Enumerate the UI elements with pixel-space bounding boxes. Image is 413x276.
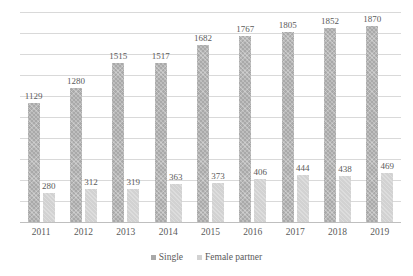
x-axis-label-2012: 2012 bbox=[62, 224, 104, 240]
bar-female-partner[interactable]: 469 bbox=[381, 173, 393, 222]
x-axis-label-2015: 2015 bbox=[189, 224, 231, 240]
bar-value-label: 1805 bbox=[279, 20, 297, 30]
bar-group: 1515319 bbox=[105, 12, 147, 222]
bar-group: 1767406 bbox=[232, 12, 274, 222]
bar-value-label: 1870 bbox=[363, 14, 381, 24]
legend-label: Single bbox=[159, 251, 183, 263]
bar-value-label: 406 bbox=[254, 167, 268, 177]
bar-single[interactable]: 1129 bbox=[28, 103, 40, 222]
bar-value-label: 1852 bbox=[321, 16, 339, 26]
bar-group: 1805444 bbox=[274, 12, 316, 222]
legend-swatch-icon bbox=[197, 255, 202, 260]
bar-female-partner[interactable]: 438 bbox=[339, 176, 351, 222]
bar-value-label: 1517 bbox=[152, 51, 170, 61]
x-axis-label-2011: 2011 bbox=[20, 224, 62, 240]
bar-single[interactable]: 1515 bbox=[112, 63, 124, 222]
bar-chart: 1129280128031215153191517363168237317674… bbox=[0, 0, 413, 276]
bar-female-partner[interactable]: 280 bbox=[43, 193, 55, 222]
bar-female-partner[interactable]: 312 bbox=[85, 189, 97, 222]
bar-value-label: 373 bbox=[211, 171, 225, 181]
legend-label: Female partner bbox=[205, 251, 262, 263]
bar-female-partner[interactable]: 444 bbox=[297, 175, 309, 222]
bar-female-partner[interactable]: 373 bbox=[212, 183, 224, 222]
x-axis-label-2018: 2018 bbox=[316, 224, 358, 240]
x-axis-label-2013: 2013 bbox=[105, 224, 147, 240]
bar-value-label: 319 bbox=[127, 177, 141, 187]
bar-female-partner[interactable]: 363 bbox=[170, 184, 182, 222]
bar-groups: 1129280128031215153191517363168237317674… bbox=[20, 12, 401, 222]
x-axis-label-2014: 2014 bbox=[147, 224, 189, 240]
x-axis-tick-labels: 201120122013201420152016201720182019 bbox=[20, 224, 401, 240]
bar-female-partner[interactable]: 406 bbox=[254, 179, 266, 222]
bar-single[interactable]: 1852 bbox=[324, 28, 336, 222]
bar-single[interactable]: 1805 bbox=[282, 32, 294, 222]
bar-value-label: 1129 bbox=[25, 91, 43, 101]
bar-value-label: 438 bbox=[338, 164, 352, 174]
bar-value-label: 444 bbox=[296, 163, 310, 173]
bar-single[interactable]: 1870 bbox=[366, 26, 378, 222]
bar-value-label: 280 bbox=[42, 181, 56, 191]
bar-value-label: 312 bbox=[84, 177, 98, 187]
chart-legend: SingleFemale partner bbox=[0, 249, 413, 265]
bar-group: 1852438 bbox=[316, 12, 358, 222]
bar-group: 1280312 bbox=[62, 12, 104, 222]
bar-female-partner[interactable]: 319 bbox=[127, 189, 139, 222]
x-axis-label-2016: 2016 bbox=[232, 224, 274, 240]
bar-single[interactable]: 1682 bbox=[197, 45, 209, 222]
bar-single[interactable]: 1280 bbox=[70, 88, 82, 222]
bar-group: 1682373 bbox=[189, 12, 231, 222]
bar-group: 1517363 bbox=[147, 12, 189, 222]
bar-value-label: 363 bbox=[169, 172, 183, 182]
bar-group: 1870469 bbox=[359, 12, 401, 222]
axis-baseline bbox=[20, 222, 401, 223]
bar-value-label: 469 bbox=[381, 161, 395, 171]
x-axis-label-2017: 2017 bbox=[274, 224, 316, 240]
legend-swatch-icon bbox=[151, 255, 156, 260]
bar-value-label: 1682 bbox=[194, 33, 212, 43]
x-axis-label-2019: 2019 bbox=[359, 224, 401, 240]
plot-area: 1129280128031215153191517363168237317674… bbox=[20, 12, 401, 222]
bar-value-label: 1515 bbox=[109, 51, 127, 61]
bar-single[interactable]: 1517 bbox=[155, 63, 167, 222]
bar-value-label: 1767 bbox=[236, 24, 254, 34]
bar-single[interactable]: 1767 bbox=[239, 36, 251, 222]
bar-group: 1129280 bbox=[20, 12, 62, 222]
legend-item-single[interactable]: Single bbox=[151, 251, 183, 263]
legend-item-female[interactable]: Female partner bbox=[197, 251, 262, 263]
bar-value-label: 1280 bbox=[67, 76, 85, 86]
